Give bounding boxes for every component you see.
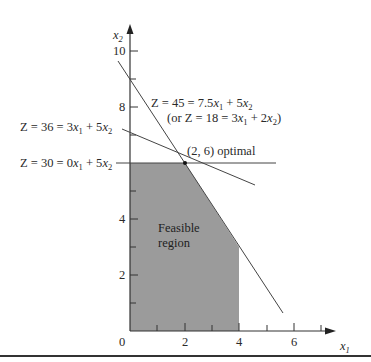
- label-z45: Z = 45 = 7.5x1 + 5x2: [151, 97, 253, 112]
- bottom-rule: [0, 355, 371, 357]
- tick-y-2: 2: [119, 269, 125, 282]
- x-axis-label: x1: [340, 340, 350, 355]
- label-z36: Z = 36 = 3x1 + 5x2: [20, 121, 112, 136]
- label-z30: Z = 30 = 0x1 + 5x2: [20, 157, 112, 172]
- tick-y-4: 4: [119, 213, 125, 226]
- tick-x-0: 0: [119, 336, 125, 349]
- tick-x-6: 6: [291, 336, 297, 349]
- lp-graph: [0, 0, 371, 362]
- feasible-region-label-2: region: [158, 237, 190, 250]
- tick-y-10: 10: [113, 45, 126, 58]
- tick-y-8: 8: [119, 101, 125, 114]
- y-axis-arrow-icon: [127, 24, 134, 34]
- x-axis-arrow-icon: [325, 328, 336, 335]
- label-z45-alt: (or Z = 18 = 3x1 + 2x2): [167, 112, 281, 127]
- optimal-point: [183, 161, 187, 165]
- feasible-region-label-1: Feasible: [158, 222, 200, 235]
- label-optimal: (2, 6) optimal: [187, 145, 255, 158]
- y-axis-label: x2: [113, 29, 123, 44]
- tick-x-4: 4: [236, 336, 242, 349]
- tick-x-2: 2: [182, 336, 188, 349]
